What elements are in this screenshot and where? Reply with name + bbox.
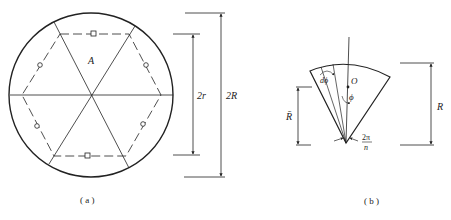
- figure-a: A 2r 2R ( a ): [9, 13, 237, 205]
- center-point-o: [347, 86, 350, 89]
- dimension-rbar: R̄: [285, 87, 312, 145]
- square-marker-bottom: [85, 153, 90, 158]
- center-label-o: O: [351, 76, 358, 86]
- dim-label-2r: 2r: [197, 90, 206, 101]
- figure-b: O dϕ ϕ 2π n R̄ R ( b ): [285, 37, 443, 206]
- caption-a: ( a ): [80, 195, 95, 205]
- dphi-label: dϕ: [320, 76, 328, 85]
- dimension-2r: 2r: [173, 34, 206, 155]
- circle-marker-ur: [144, 63, 149, 68]
- dphi-arc: [320, 71, 334, 75]
- dimension-2R: 2R: [184, 13, 237, 177]
- apex-arrow-right: [350, 138, 358, 141]
- dimension-R: R: [400, 63, 443, 145]
- dim-label-R: R: [436, 101, 443, 112]
- phi-label: ϕ: [349, 92, 354, 102]
- apex-arrow-left: [334, 138, 343, 141]
- diagram-canvas: A 2r 2R ( a ) O dϕ: [0, 0, 451, 220]
- circle-marker-ul: [38, 63, 43, 68]
- region-label-a: A: [87, 55, 95, 66]
- circle-marker-lr: [141, 122, 146, 127]
- dim-label-2R: 2R: [226, 90, 237, 101]
- caption-b: ( b ): [364, 196, 379, 206]
- sector-angle-denominator: n: [364, 143, 368, 152]
- dim-label-rbar: R̄: [285, 111, 292, 122]
- square-marker-top: [91, 31, 96, 36]
- sector-angle-numerator: 2π: [362, 133, 370, 142]
- circle-marker-ll: [35, 124, 40, 129]
- symmetry-axis: [346, 37, 349, 143]
